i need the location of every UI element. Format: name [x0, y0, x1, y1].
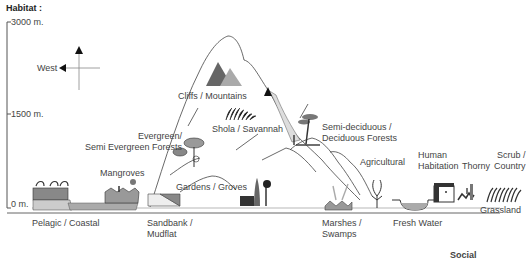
label-cliffs: Cliffs / Mountains	[178, 91, 247, 102]
axis-tick-3000: 3000 m.	[11, 17, 44, 28]
footer-fragment: Social	[450, 250, 477, 261]
compass-icon	[59, 46, 100, 90]
label-sandbank: Sandbank / Mudflat	[147, 218, 193, 240]
axis-tick-0: 0 m.	[11, 199, 29, 210]
label-gardens: Gardens / Groves	[176, 182, 247, 193]
label-agricultural: Agricultural	[360, 157, 405, 168]
label-freshwater: Fresh Water	[393, 218, 442, 229]
label-thorny: Thorny	[462, 161, 490, 172]
compass-west-label: West	[37, 63, 57, 74]
label-mangroves: Mangroves	[100, 168, 145, 179]
house-icon	[434, 183, 454, 202]
label-marshes: Marshes / Swamps	[322, 218, 362, 240]
label-evergreen: Evergreen/ Semi Evergreen Forests	[85, 131, 182, 153]
label-pelagic: Pelagic / Coastal	[32, 218, 100, 229]
label-shola: Shola / Savannah	[212, 124, 283, 135]
grassland-icon	[487, 188, 521, 202]
thorny-shrub-icon	[458, 184, 474, 200]
mountain-icon	[206, 62, 242, 86]
sandbank-icon	[148, 194, 180, 206]
axis-tick-1500: 1500 m.	[11, 109, 44, 120]
label-scrub-country: Scrub / Country	[494, 150, 526, 172]
label-human-habitation: Human Habitation	[418, 150, 459, 172]
crop-icon	[372, 180, 382, 208]
freshwater-icon	[392, 200, 434, 210]
mangrove-icon	[105, 179, 139, 203]
grass-icon	[226, 108, 256, 120]
label-semideciduous: Semi-deciduous / Deciduous Forests	[322, 122, 397, 144]
label-grassland: Grassland	[480, 205, 521, 216]
